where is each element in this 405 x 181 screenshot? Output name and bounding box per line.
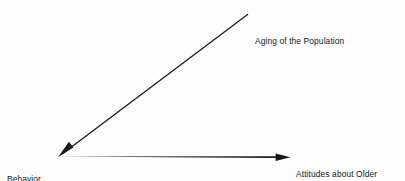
node-label-attitudes: Attitudes about Older People and Aging xyxy=(296,146,377,181)
node-label-behavior-line-1: Behavior xyxy=(7,174,41,181)
arrow-aging-to-behavior xyxy=(58,14,247,157)
node-label-behavior: Behavior xyxy=(7,151,41,181)
arrow-aging-to-behavior-line xyxy=(63,14,248,153)
arrow-aging-to-behavior-head xyxy=(58,142,73,157)
arrow-behavior-to-attitudes-line xyxy=(59,156,277,158)
node-label-attitudes-line-1: Attitudes about Older xyxy=(296,169,377,181)
node-label-aging-population-line-1: Aging of the Population xyxy=(255,36,344,48)
node-label-aging-population: Aging of the Population xyxy=(255,13,344,71)
relationship-diagram-figure: Aging of the Population Behavior Attitud… xyxy=(0,0,405,181)
arrow-behavior-to-attitudes-head xyxy=(276,154,291,161)
arrow-behavior-to-attitudes xyxy=(59,154,291,161)
